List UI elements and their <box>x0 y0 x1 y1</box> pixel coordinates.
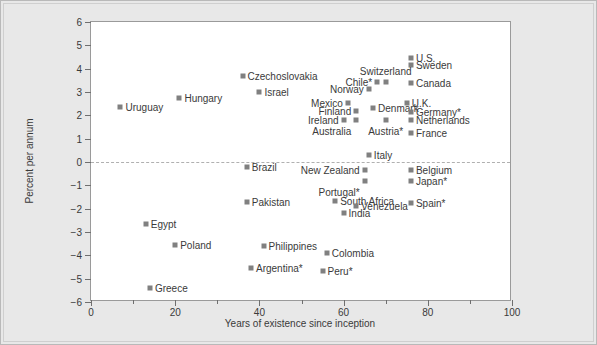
y-tick-label--5: −5 <box>71 273 82 284</box>
data-point-label: Pakistan <box>252 196 290 207</box>
scatter-plot-area: −6−5−4−3−2−10123456 020406080100 Uruguay… <box>90 21 511 301</box>
x-tick-minor-70 <box>386 300 387 304</box>
y-tick-0 <box>85 162 91 163</box>
data-point-label: Hungary <box>184 92 222 103</box>
y-tick--5 <box>85 279 91 280</box>
data-point-label: Greece <box>155 283 188 294</box>
data-point-label: France <box>416 127 447 138</box>
data-point-label: Israel <box>264 87 288 98</box>
x-tick-minor-90 <box>470 300 471 304</box>
data-point-marker <box>320 268 325 273</box>
y-tick-1 <box>85 139 91 140</box>
y-tick--4 <box>85 255 91 256</box>
data-point-marker <box>408 178 413 183</box>
x-tick-label-80: 80 <box>422 307 433 318</box>
data-point-label: Sweden <box>416 60 452 71</box>
data-point-label: Australia <box>312 126 351 137</box>
data-point-marker <box>244 164 249 169</box>
x-tick-80 <box>428 300 429 306</box>
y-tick-label-3: 3 <box>76 87 82 98</box>
data-point-label: Netherlands <box>416 115 470 126</box>
data-point-marker <box>257 90 262 95</box>
data-point-marker <box>408 168 413 173</box>
data-point-label: Italy <box>374 150 392 161</box>
data-point-label: Egypt <box>151 218 177 229</box>
data-point-marker <box>333 198 338 203</box>
x-axis-title: Years of existence since inception <box>225 318 375 329</box>
data-point-marker <box>408 200 413 205</box>
data-point-marker <box>173 242 178 247</box>
data-point-marker <box>261 244 266 249</box>
x-tick-label-100: 100 <box>504 307 521 318</box>
y-tick-label-2: 2 <box>76 110 82 121</box>
data-point-marker <box>408 118 413 123</box>
data-point-marker <box>177 95 182 100</box>
y-tick-label-6: 6 <box>76 17 82 28</box>
data-point-label: Canada <box>416 77 451 88</box>
y-tick-6 <box>85 22 91 23</box>
data-point-marker <box>362 178 367 183</box>
x-tick-label-0: 0 <box>88 307 94 318</box>
data-point-label: Czechoslovakia <box>248 70 318 81</box>
x-tick-label-20: 20 <box>170 307 181 318</box>
data-point-marker <box>366 86 371 91</box>
data-point-marker <box>375 79 380 84</box>
data-point-label: Belgium <box>416 165 452 176</box>
data-point-marker <box>244 199 249 204</box>
data-point-marker <box>408 56 413 61</box>
x-tick-60 <box>344 300 345 306</box>
x-tick-100 <box>512 300 513 306</box>
data-point-label: Poland <box>180 239 211 250</box>
y-tick-label--4: −4 <box>71 250 82 261</box>
y-tick-label-4: 4 <box>76 63 82 74</box>
data-point-label: Uruguay <box>125 102 163 113</box>
data-point-marker <box>371 106 376 111</box>
data-point-marker <box>147 286 152 291</box>
data-point-marker <box>408 109 413 114</box>
zero-reference-line <box>91 162 510 163</box>
data-point-marker <box>324 251 329 256</box>
data-point-marker <box>408 130 413 135</box>
data-point-marker <box>383 79 388 84</box>
y-tick-5 <box>85 45 91 46</box>
data-point-marker <box>341 118 346 123</box>
y-tick-label-1: 1 <box>76 133 82 144</box>
y-tick--2 <box>85 209 91 210</box>
y-axis-title: Percent per annum <box>24 118 35 203</box>
data-point-label: Japan* <box>416 175 447 186</box>
data-point-label: Argentina* <box>256 263 303 274</box>
figure-panel: −6−5−4−3−2−10123456 020406080100 Uruguay… <box>0 0 597 345</box>
data-point-marker <box>118 105 123 110</box>
data-point-marker <box>408 80 413 85</box>
data-point-label: Austria* <box>368 126 403 137</box>
data-point-marker <box>354 118 359 123</box>
data-point-marker <box>240 73 245 78</box>
x-tick-minor-50 <box>302 300 303 304</box>
y-tick-label--6: −6 <box>71 297 82 308</box>
data-point-marker <box>366 153 371 158</box>
x-tick-40 <box>259 300 260 306</box>
y-tick-label--1: −1 <box>71 180 82 191</box>
x-tick-minor-10 <box>133 300 134 304</box>
y-tick-label-5: 5 <box>76 40 82 51</box>
data-point-label: Norway <box>330 83 364 94</box>
data-point-label: Philippines <box>269 241 317 252</box>
data-point-label: Peru* <box>328 265 353 276</box>
x-tick-label-60: 60 <box>338 307 349 318</box>
x-tick-20 <box>175 300 176 306</box>
data-point-marker <box>143 221 148 226</box>
x-tick-0 <box>91 300 92 306</box>
data-point-label: Colombia <box>332 248 374 259</box>
y-tick-label--2: −2 <box>71 203 82 214</box>
y-tick-4 <box>85 69 91 70</box>
data-point-marker <box>341 211 346 216</box>
y-tick-3 <box>85 92 91 93</box>
y-tick-label--3: −3 <box>71 227 82 238</box>
y-tick--1 <box>85 185 91 186</box>
data-point-label: Switzerland <box>360 65 412 76</box>
data-point-label: New Zealand <box>301 165 360 176</box>
y-tick--3 <box>85 232 91 233</box>
data-point-marker <box>248 266 253 271</box>
data-point-marker <box>354 108 359 113</box>
data-point-marker <box>383 118 388 123</box>
